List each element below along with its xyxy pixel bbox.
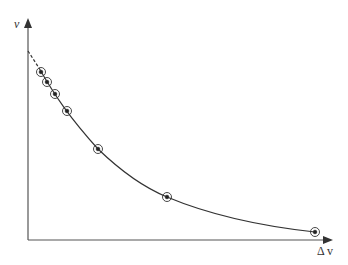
extrapolation-line: [28, 51, 39, 68]
fitted-curve: [39, 68, 315, 232]
y-axis-arrow-icon: [24, 18, 32, 28]
x-axis-arrow-icon: [323, 236, 333, 244]
data-point: [43, 78, 52, 87]
plot-area: [0, 0, 348, 265]
data-point: [37, 68, 46, 77]
y-axis-label: v: [14, 17, 19, 32]
data-point: [51, 90, 60, 99]
data-point: [163, 193, 172, 202]
data-point: [63, 107, 72, 116]
data-point: [94, 145, 103, 154]
data-points: [37, 68, 320, 237]
chart: v Δ v: [0, 0, 348, 265]
x-axis-label: Δ v: [317, 244, 333, 259]
